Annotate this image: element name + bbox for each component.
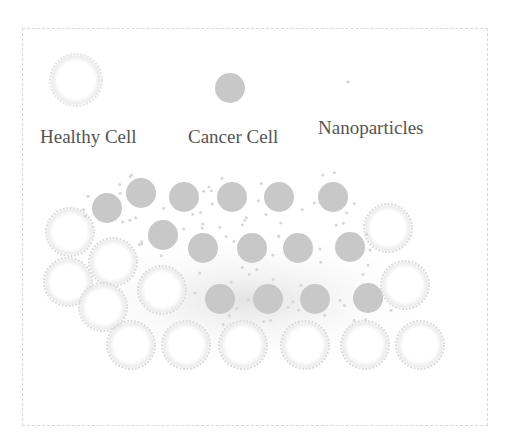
cancer-cell	[335, 232, 365, 262]
nanoparticle	[366, 263, 369, 266]
nanoparticle	[218, 226, 221, 229]
nanoparticle	[260, 182, 263, 185]
legend-cancer-cell-icon	[215, 73, 245, 103]
healthy-cell	[138, 266, 186, 314]
nanoparticle	[272, 278, 275, 281]
nanoparticle	[220, 177, 223, 180]
nanoparticle	[264, 213, 267, 216]
cancer-cell	[92, 193, 122, 223]
nanoparticle	[390, 309, 393, 312]
healthy-cell	[219, 321, 267, 369]
nanoparticle	[119, 192, 122, 195]
cancer-cell	[148, 220, 178, 250]
legend-healthy-cell-icon	[50, 54, 102, 106]
nanoparticle	[248, 273, 251, 276]
legend-nanoparticle-icon	[346, 80, 349, 83]
nanoparticle	[247, 298, 250, 301]
nanoparticle	[87, 195, 90, 198]
nanoparticle	[342, 222, 345, 225]
nanoparticle	[269, 319, 272, 322]
nanoparticle	[321, 174, 324, 177]
nanoparticle	[333, 171, 336, 174]
cancer-cell-label: Cancer Cell	[188, 126, 278, 148]
nanoparticle	[130, 174, 133, 177]
nanoparticle	[199, 211, 202, 214]
nanoparticle	[201, 226, 204, 229]
nanoparticle	[318, 247, 321, 250]
nanoparticle	[319, 261, 322, 264]
nanoparticle	[191, 213, 194, 216]
cancer-cell	[264, 182, 294, 212]
nanoparticle	[202, 190, 205, 193]
nanoparticle	[162, 207, 165, 210]
nanoparticle	[343, 304, 346, 307]
healthy-cell	[46, 208, 94, 256]
healthy-cell	[281, 321, 329, 369]
nanoparticle	[201, 222, 204, 225]
nanoparticle	[279, 222, 282, 225]
cancer-cell	[353, 283, 383, 313]
cancer-cell	[126, 178, 156, 208]
cancer-cell	[169, 182, 199, 212]
nanoparticle	[277, 235, 280, 238]
healthy-cell	[364, 204, 412, 252]
nanoparticle	[138, 243, 141, 246]
nanoparticle	[198, 271, 201, 274]
nanoparticles-label: Nanoparticles	[318, 117, 424, 139]
nanoparticle	[297, 309, 300, 312]
cancer-cell	[253, 284, 283, 314]
nanoparticle	[364, 318, 367, 321]
cancer-cell	[188, 233, 218, 263]
cancer-cell	[283, 233, 313, 263]
nanoparticle	[235, 307, 238, 310]
nanoparticle	[271, 254, 274, 257]
nanoparticle	[160, 254, 163, 257]
nanoparticle	[222, 323, 225, 326]
nanoparticle	[365, 233, 368, 236]
nanoparticle	[255, 268, 258, 271]
nanoparticle	[211, 202, 214, 205]
nanoparticle	[243, 219, 246, 222]
nanoparticle	[121, 220, 124, 223]
cancer-cell	[318, 182, 348, 212]
nanoparticle	[323, 314, 326, 317]
nanoparticle	[225, 235, 228, 238]
healthy-cell	[89, 238, 137, 286]
nanoparticle	[82, 208, 85, 211]
healthy-cell	[381, 261, 429, 309]
nanoparticle	[291, 301, 294, 304]
nanoparticle	[241, 266, 244, 269]
nanoparticle	[301, 208, 304, 211]
nanoparticle	[241, 224, 244, 227]
cancer-cell	[300, 284, 330, 314]
diagram-canvas	[0, 0, 511, 445]
healthy-cell	[162, 321, 210, 369]
nanoparticle	[140, 240, 143, 243]
nanoparticle	[345, 211, 348, 214]
nanoparticle	[228, 314, 231, 317]
nanoparticle	[262, 320, 265, 323]
nanoparticle	[230, 281, 233, 284]
nanoparticle	[182, 227, 185, 230]
nanoparticle	[353, 319, 356, 322]
nanoparticle	[118, 183, 121, 186]
healthy-cell	[396, 321, 444, 369]
nanoparticle	[210, 189, 213, 192]
healthy-cell	[341, 321, 389, 369]
cancer-cell	[205, 284, 235, 314]
nanoparticle	[232, 240, 235, 243]
nanoparticle	[313, 202, 316, 205]
nanoparticle	[245, 216, 248, 219]
nanoparticle	[257, 199, 260, 202]
nanoparticle	[362, 273, 365, 276]
healthy-cell-label: Healthy Cell	[40, 126, 137, 148]
nanoparticle	[207, 186, 210, 189]
nanoparticle	[84, 215, 87, 218]
cancer-cell	[217, 182, 247, 212]
nanoparticle	[134, 216, 137, 219]
cancer-cell	[237, 233, 267, 263]
nanoparticle	[368, 249, 371, 252]
nanoparticle	[287, 306, 290, 309]
nanoparticle	[128, 219, 131, 222]
nanoparticle	[299, 284, 302, 287]
